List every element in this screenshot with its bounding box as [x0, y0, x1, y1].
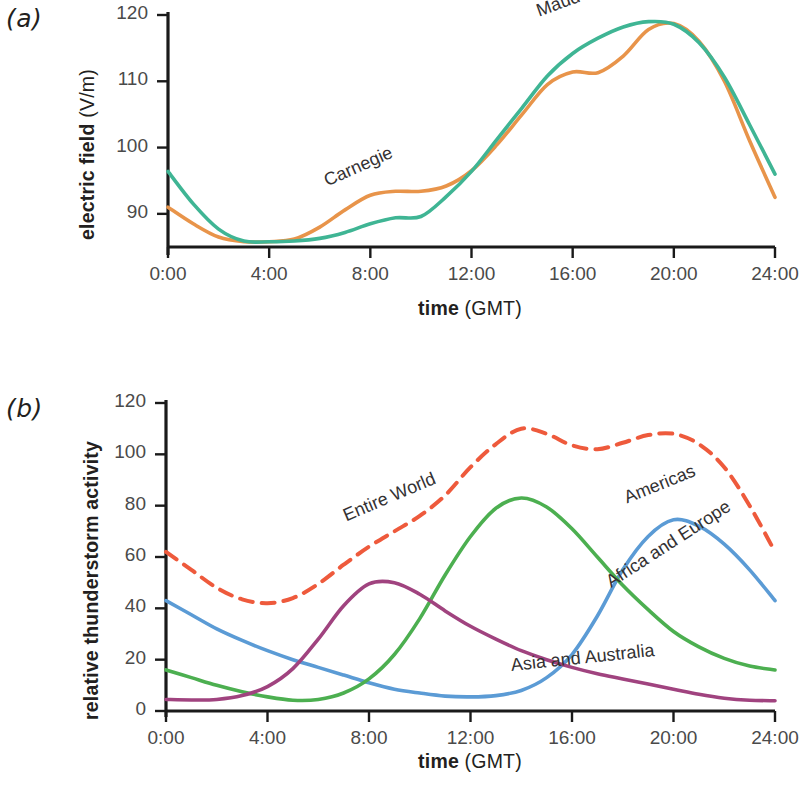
- series-line: [168, 23, 775, 242]
- series-line: [166, 428, 775, 603]
- x-tick-label: 0:00: [118, 263, 218, 285]
- x-tick-label: 0:00: [116, 727, 216, 749]
- x-tick-label: 24:00: [725, 263, 801, 285]
- series-line: [168, 21, 775, 242]
- y-tick-label: 20: [58, 647, 146, 669]
- y-tick-label: 100: [58, 441, 146, 463]
- panel-a: (a) electric field (V/m) time (GMT) 0:00…: [0, 0, 801, 360]
- x-tick-label: 24:00: [725, 727, 801, 749]
- figure-container: (a) electric field (V/m) time (GMT) 0:00…: [0, 0, 801, 797]
- y-tick-label: 80: [58, 493, 146, 515]
- chart-a-plot: [0, 0, 801, 360]
- x-tick-label: 16:00: [522, 727, 622, 749]
- series-line: [166, 581, 775, 701]
- x-tick-label: 4:00: [219, 263, 319, 285]
- y-tick-label: 120: [58, 390, 146, 412]
- x-tick-label: 20:00: [624, 727, 724, 749]
- x-tick-label: 8:00: [320, 263, 420, 285]
- x-tick-label: 8:00: [319, 727, 419, 749]
- y-tick-label: 60: [58, 544, 146, 566]
- y-tick-label: 0: [58, 698, 146, 720]
- y-tick-label: 40: [58, 595, 146, 617]
- x-tick-label: 16:00: [523, 263, 623, 285]
- panel-b: (b) relative thunderstorm activity time …: [0, 380, 801, 797]
- y-tick-label: 100: [60, 135, 148, 157]
- x-tick-label: 4:00: [218, 727, 318, 749]
- x-tick-label: 20:00: [624, 263, 724, 285]
- x-tick-label: 12:00: [422, 263, 522, 285]
- x-tick-label: 12:00: [421, 727, 521, 749]
- y-tick-label: 110: [60, 68, 148, 90]
- y-tick-label: 120: [60, 2, 148, 24]
- y-tick-label: 90: [60, 201, 148, 223]
